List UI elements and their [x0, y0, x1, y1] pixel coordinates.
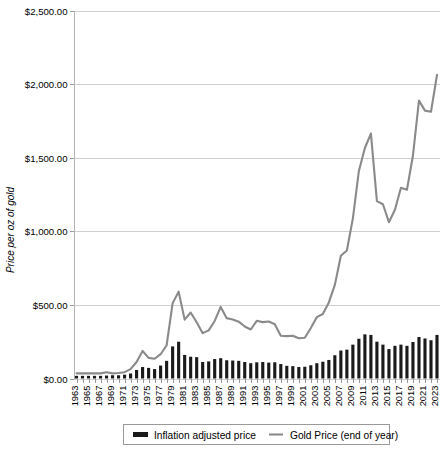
y-tick-label: $2,000.00 — [25, 79, 68, 90]
bar — [387, 349, 390, 378]
bar — [225, 360, 228, 378]
bar — [213, 359, 216, 378]
x-tick-label: 1965 — [81, 386, 92, 407]
bar — [327, 360, 330, 379]
bar — [303, 367, 306, 379]
bar — [147, 368, 150, 379]
x-tick-label: 2015 — [381, 386, 392, 407]
bar — [123, 375, 126, 379]
x-tick-label: 1981 — [177, 386, 188, 407]
bar — [291, 366, 294, 378]
bar — [237, 361, 240, 379]
y-axis-tick-labels: $0.00$500.00$1,000.00$1,500.00$2,000.00$… — [25, 6, 74, 385]
bar — [135, 370, 138, 379]
bar — [141, 367, 144, 378]
bar — [273, 362, 276, 378]
bar-series-inflation-adjusted-price — [75, 334, 439, 378]
bar — [267, 363, 270, 379]
x-tick-label: 1985 — [201, 386, 212, 407]
y-tick-label: $500.00 — [33, 300, 68, 311]
x-tick-label: 1991 — [237, 386, 248, 407]
bar — [423, 338, 426, 378]
legend-label-gold-price: Gold Price (end of year) — [290, 430, 398, 441]
x-tick-label: 1977 — [153, 386, 164, 407]
bar — [243, 362, 246, 378]
bar — [375, 342, 378, 379]
x-axis-tick-labels: 1963196519671969197119731975197719791981… — [69, 386, 440, 407]
bar — [111, 375, 114, 378]
bar — [87, 376, 90, 379]
bar — [333, 355, 336, 378]
bar — [255, 362, 258, 378]
x-axis-tick-marks — [78, 379, 438, 383]
bar — [429, 340, 432, 378]
bar — [411, 342, 414, 379]
bar — [285, 366, 288, 379]
bar — [279, 364, 282, 378]
x-tick-label: 1993 — [249, 386, 260, 407]
x-tick-label: 2013 — [369, 386, 380, 407]
bar — [99, 376, 102, 379]
bar — [309, 365, 312, 378]
x-tick-label: 2003 — [309, 386, 320, 407]
x-tick-label: 1973 — [129, 386, 140, 407]
bar — [369, 335, 372, 379]
bar — [201, 362, 204, 378]
bar — [219, 358, 222, 378]
y-axis-title-text: Price per oz of gold — [5, 186, 16, 273]
bar — [315, 363, 318, 378]
bar — [183, 355, 186, 379]
bar — [81, 376, 84, 379]
bar — [393, 346, 396, 379]
bar — [93, 376, 96, 379]
x-tick-label: 2011 — [357, 386, 368, 406]
legend-label-inflation-adjusted-price: Inflation adjusted price — [154, 430, 256, 441]
x-tick-label: 1969 — [105, 386, 116, 407]
x-tick-label: 2023 — [429, 386, 440, 407]
bar — [435, 335, 438, 379]
y-axis-title: Price per oz of gold — [5, 186, 16, 273]
bar — [363, 334, 366, 378]
bar — [399, 345, 402, 379]
x-tick-label: 1999 — [285, 386, 296, 407]
x-tick-label: 1989 — [225, 386, 236, 407]
bar — [129, 374, 132, 379]
bar — [105, 376, 108, 379]
x-tick-label: 1971 — [117, 386, 128, 407]
gridlines-group — [74, 12, 441, 380]
x-tick-label: 2021 — [417, 386, 428, 407]
x-tick-label: 2001 — [297, 386, 308, 407]
bar — [117, 375, 120, 378]
y-tick-label: $1,000.00 — [25, 226, 68, 237]
y-tick-label: $0.00 — [43, 374, 67, 385]
bar — [357, 339, 360, 379]
y-tick-label: $1,500.00 — [25, 153, 68, 164]
x-tick-label: 1987 — [213, 386, 224, 407]
bar — [381, 345, 384, 379]
bar — [165, 361, 168, 379]
bar — [417, 337, 420, 379]
bar — [153, 369, 156, 378]
bar-swatch-icon — [133, 432, 148, 437]
x-tick-label: 2007 — [333, 386, 344, 407]
x-tick-label: 2005 — [321, 386, 332, 407]
bar — [405, 346, 408, 379]
x-tick-label: 2009 — [345, 386, 356, 407]
gold-price-chart: $0.00$500.00$1,000.00$1,500.00$2,000.00$… — [0, 0, 447, 451]
x-tick-label: 1963 — [69, 386, 80, 407]
x-tick-label: 1979 — [165, 386, 176, 407]
bar — [171, 346, 174, 378]
bar — [261, 362, 264, 378]
x-tick-label: 2017 — [393, 386, 404, 407]
y-tick-label: $2,500.00 — [25, 6, 68, 17]
bar — [189, 357, 192, 379]
bar — [195, 357, 198, 378]
gold-price-line — [77, 75, 438, 374]
x-tick-label: 2019 — [405, 386, 416, 407]
bar — [177, 342, 180, 379]
x-tick-label: 1967 — [93, 386, 104, 407]
x-tick-label: 1975 — [141, 386, 152, 407]
bar — [207, 361, 210, 378]
bar — [159, 366, 162, 379]
bar — [339, 351, 342, 379]
